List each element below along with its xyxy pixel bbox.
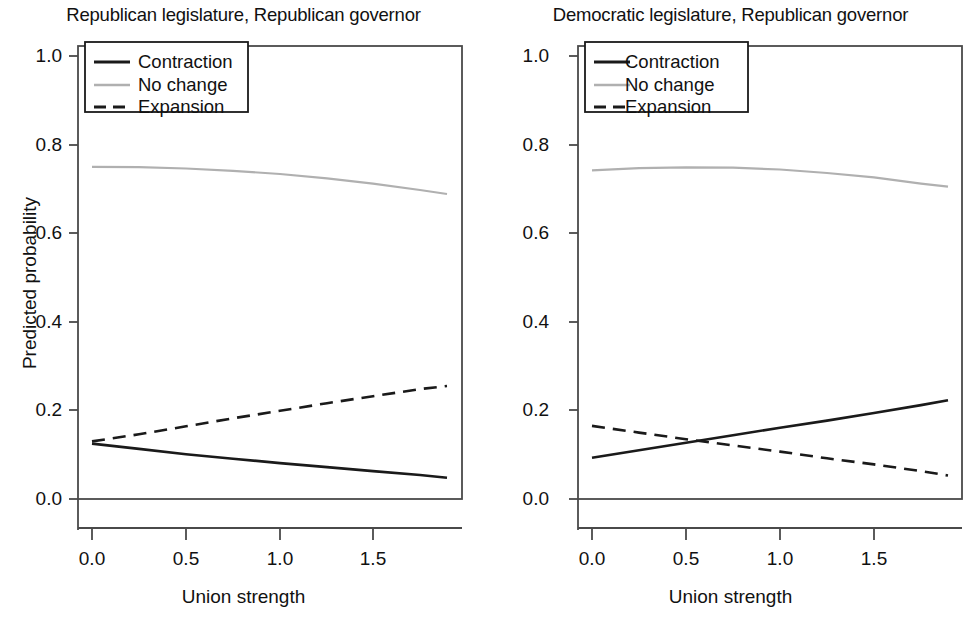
line-no-change [92, 167, 447, 194]
y-tick-label: 0.0 [10, 488, 62, 510]
x-tick-label: 0.5 [156, 548, 216, 570]
y-tick-label: 1.0 [497, 45, 549, 67]
legend-label-contraction: Contraction [625, 51, 720, 73]
y-tick-label: 0.0 [497, 488, 549, 510]
data-lines [592, 167, 948, 475]
x-tick-marks [578, 499, 962, 540]
x-tick-marks [78, 499, 462, 540]
x-tick-label: 1.5 [343, 548, 403, 570]
plot-frame-and-ticks [569, 46, 962, 540]
plot-canvas [0, 0, 487, 628]
y-tick-label: 0.6 [497, 222, 549, 244]
x-tick-label: 0.0 [562, 548, 622, 570]
x-tick-label: 1.0 [750, 548, 810, 570]
y-axis-label: Predicted probability [19, 158, 41, 408]
legend-label-expansion: Expansion [625, 96, 711, 118]
legend-label-no-change: No change [138, 74, 227, 96]
legend-label-contraction: Contraction [138, 51, 233, 73]
y-tick-label: 0.2 [497, 399, 549, 421]
panel-republican-legislature: Republican legislature, Republican gover… [0, 0, 487, 628]
plot-canvas [487, 0, 974, 628]
x-tick-label: 0.5 [656, 548, 716, 570]
plot-frame-and-ticks [69, 46, 462, 540]
panel-democratic-legislature: Democratic legislature, Republican gover… [487, 0, 974, 628]
x-axis-label: Union strength [487, 586, 974, 608]
data-lines [92, 167, 447, 478]
y-tick-marks [569, 56, 578, 499]
y-tick-label: 0.4 [497, 311, 549, 333]
legend-label-no-change: No change [625, 74, 714, 96]
legend-label-expansion: Expansion [138, 96, 224, 118]
y-tick-marks [69, 56, 78, 499]
y-tick-label: 1.0 [10, 45, 62, 67]
y-tick-label: 0.8 [497, 134, 549, 156]
line-expansion [592, 426, 948, 476]
x-tick-label: 1.5 [844, 548, 904, 570]
x-axis-label: Union strength [0, 586, 487, 608]
figure-two-panel-line-charts: Republican legislature, Republican gover… [0, 0, 974, 628]
x-tick-label: 0.0 [62, 548, 122, 570]
x-tick-label: 1.0 [250, 548, 310, 570]
line-expansion [92, 386, 447, 441]
line-no-change [592, 167, 948, 186]
y-tick-label: 0.8 [10, 134, 62, 156]
plot-frame [78, 46, 462, 499]
line-contraction [92, 444, 447, 478]
